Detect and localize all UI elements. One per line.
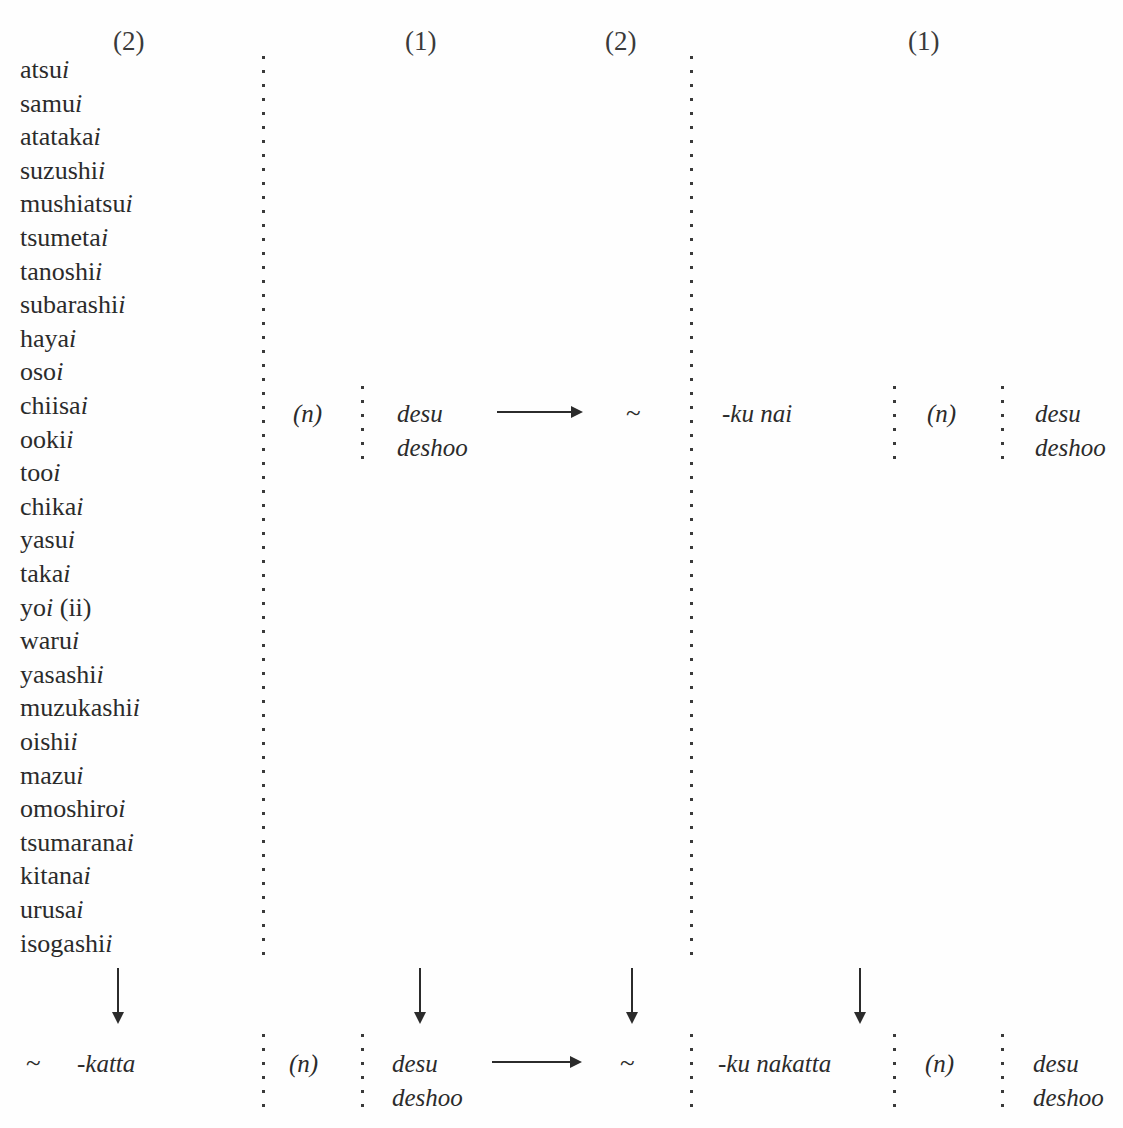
adjective-stem: taka — [20, 559, 63, 588]
adjective-item: subarashii — [20, 292, 125, 318]
past-arrow-1 — [112, 968, 124, 1024]
adjective-i-ending: i — [97, 660, 104, 689]
adjective-stem: omoshiro — [20, 794, 118, 823]
adjective-i-ending: i — [84, 861, 91, 890]
cell-divider-middle-2 — [893, 386, 896, 464]
column-divider-2-lower — [690, 1034, 693, 1116]
adjective-i-ending: i — [53, 458, 60, 487]
column-divider-2-upper — [690, 56, 693, 960]
adjective-stem: too — [20, 458, 53, 487]
past-arrow-4 — [854, 968, 866, 1024]
adjective-i-ending: i — [81, 391, 88, 420]
adjective-stem: atsu — [20, 55, 62, 84]
adjective-item: hayai — [20, 326, 76, 352]
adjective-stem: subarashi — [20, 290, 118, 319]
adjective-stem: tsumeta — [20, 223, 101, 252]
adjective-item: atsui — [20, 57, 69, 83]
adjective-i-ending: i — [118, 290, 125, 319]
adjective-i-ending: i — [72, 626, 79, 655]
adjective-item: mazui — [20, 763, 84, 789]
adjective-stem: mushiatsu — [20, 189, 125, 218]
bottom-copula-desu-2: desu — [1033, 1051, 1079, 1076]
conjugation-chart-page: (2) (1) (2) (1) atsuisamuiatatakaisuzush… — [0, 0, 1123, 1128]
adjective-i-ending: i — [76, 492, 83, 521]
adjective-item: osoi — [20, 359, 63, 385]
adjective-i-ending: i — [94, 122, 101, 151]
column-header-2: (1) — [405, 28, 436, 55]
adjective-stem: chika — [20, 492, 76, 521]
adjective-item: muzukashii — [20, 695, 140, 721]
column-header-4: (1) — [908, 28, 939, 55]
adjective-item: chikai — [20, 494, 84, 520]
adjective-i-ending: i — [76, 761, 83, 790]
adjective-item: chiisai — [20, 393, 88, 419]
middle-copula-desu-1: desu — [397, 401, 443, 426]
adjective-stem: tanoshi — [20, 257, 95, 286]
bottom-n-marker-1: (n) — [289, 1051, 318, 1076]
adjective-item: urusai — [20, 897, 84, 923]
adjective-i-ending: i — [125, 189, 132, 218]
adjective-item: takai — [20, 561, 71, 587]
adjective-i-ending: i — [75, 89, 82, 118]
middle-copula-deshoo-2: deshoo — [1035, 435, 1106, 460]
adjective-item: tsumaranai — [20, 830, 134, 856]
past-arrow-2 — [414, 968, 426, 1024]
adjective-stem: waru — [20, 626, 72, 655]
adjective-item: oishii — [20, 729, 78, 755]
cell-divider-bottom-3 — [1001, 1034, 1004, 1116]
adjective-i-ending: i — [127, 828, 134, 857]
adjective-stem: atataka — [20, 122, 94, 151]
adjective-item: yoi (ii) — [20, 595, 92, 621]
adjective-stem: mazu — [20, 761, 76, 790]
adjective-stem: haya — [20, 324, 69, 353]
bottom-copula-deshoo-2: deshoo — [1033, 1085, 1104, 1110]
adjective-i-ending: i — [68, 525, 75, 554]
middle-negative-suffix: -ku nai — [722, 401, 792, 426]
adjective-i-ending: i — [56, 357, 63, 386]
column-header-3: (2) — [605, 28, 636, 55]
adjective-stem: isogashi — [20, 929, 105, 958]
adjective-stem: muzukashi — [20, 693, 133, 722]
adjective-i-ending: i — [76, 895, 83, 924]
middle-copula-desu-2: desu — [1035, 401, 1081, 426]
adjective-stem: urusa — [20, 895, 76, 924]
adjective-item: atatakai — [20, 124, 101, 150]
adjective-i-ending: i — [95, 257, 102, 286]
middle-n-marker-2: (n) — [927, 401, 956, 426]
adjective-stem: suzushi — [20, 156, 98, 185]
middle-copula-deshoo-1: deshoo — [397, 435, 468, 460]
bottom-copula-desu-1: desu — [392, 1051, 438, 1076]
adjective-item: omoshiroi — [20, 796, 125, 822]
adjective-item: yasashii — [20, 662, 104, 688]
bottom-tilde-right: ~ — [620, 1050, 635, 1077]
column-header-1: (2) — [113, 28, 144, 55]
cell-divider-middle-3 — [1001, 386, 1004, 464]
adjective-i-ending: i — [62, 55, 69, 84]
adjective-item: kitanai — [20, 863, 91, 889]
bottom-n-marker-2: (n) — [925, 1051, 954, 1076]
adjective-stem: oso — [20, 357, 56, 386]
adjective-i-ending: i — [105, 929, 112, 958]
past-arrow-3 — [626, 968, 638, 1024]
bottom-copula-deshoo-1: deshoo — [392, 1085, 463, 1110]
adjective-i-ending: i — [69, 324, 76, 353]
adjective-item: ookii — [20, 427, 73, 453]
adjective-item: mushiatsui — [20, 191, 133, 217]
adjective-stem: kitana — [20, 861, 84, 890]
column-divider-1-lower — [262, 1034, 265, 1116]
adjective-item: yasui — [20, 527, 75, 553]
adjective-item: tooi — [20, 460, 60, 486]
adjective-stem: ooki — [20, 425, 66, 454]
adjective-item: tsumetai — [20, 225, 108, 251]
bottom-negative-past-suffix: -ku nakatta — [718, 1051, 831, 1076]
adjective-item: samui — [20, 91, 82, 117]
cell-divider-bottom-1 — [361, 1034, 364, 1116]
adjective-i-ending: i — [98, 156, 105, 185]
adjective-i-ending: i — [66, 425, 73, 454]
adjective-stem: yasashi — [20, 660, 97, 689]
adjective-i-ending: i — [118, 794, 125, 823]
transform-arrow-middle — [497, 406, 583, 418]
bottom-past-suffix: -katta — [77, 1051, 135, 1076]
middle-n-marker-1: (n) — [293, 401, 322, 426]
adjective-stem: chiisa — [20, 391, 81, 420]
